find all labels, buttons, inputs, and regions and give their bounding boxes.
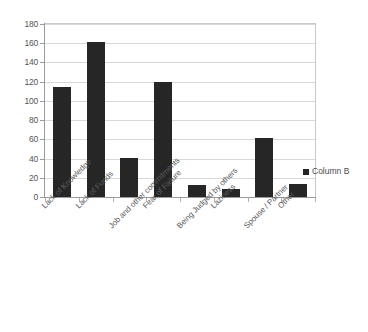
x-axis-category-label: Being Judged by others [175, 166, 239, 230]
legend-square-marker-icon [303, 169, 309, 175]
x-axis-category-label: Job and other commitments [107, 156, 181, 230]
legend-entry-label: Column B [312, 167, 349, 176]
bar-chart: 020406080100120140160180 Lack of Knowled… [0, 0, 368, 332]
chart-legend: Column B [303, 167, 349, 176]
